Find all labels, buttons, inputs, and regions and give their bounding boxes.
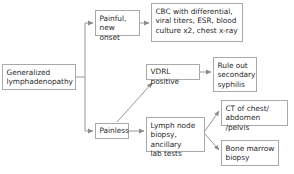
node-cbc-workup[interactable]: CBC with differential, viral titers, ESR… bbox=[151, 3, 243, 42]
node-lymph-node-biopsy[interactable]: Lymph node biopsy, ancillary lab tests bbox=[146, 117, 205, 152]
node-vdrl-positive[interactable]: VDRL positive bbox=[146, 64, 200, 80]
node-painless[interactable]: Painless bbox=[95, 123, 129, 139]
edge-biopsy-to-ct bbox=[205, 111, 219, 131]
node-painful-new-onset[interactable]: Painful, new onset bbox=[95, 10, 140, 36]
node-generalized-lymphadenopathy[interactable]: Generalized lymphadenopathy bbox=[2, 64, 76, 90]
node-bone-marrow-biopsy[interactable]: Bone marrow biopsy bbox=[221, 140, 279, 166]
flowchart-canvas: Generalized lymphadenopathy Painful, new… bbox=[0, 0, 294, 174]
node-ct-chest-abdomen-pelvis[interactable]: CT of chest/ abdomen /pelvis bbox=[221, 100, 288, 126]
node-rule-out-secondary-syphilis[interactable]: Rule out secondary syphilis bbox=[213, 57, 257, 92]
edge-biopsy-to-bonemarrow bbox=[205, 134, 219, 150]
